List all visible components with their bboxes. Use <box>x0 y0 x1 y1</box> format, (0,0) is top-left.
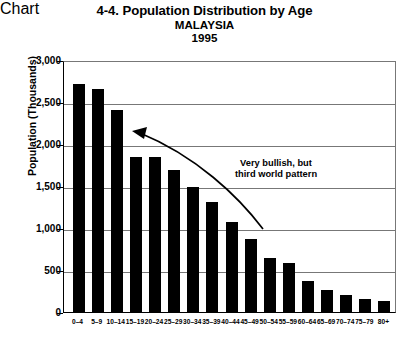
bar <box>359 299 371 312</box>
bar <box>73 84 85 312</box>
annotation-line-1: Very bullish, but <box>216 158 336 169</box>
bar <box>149 157 161 312</box>
y-tick-label: 0 <box>1 308 61 318</box>
plot-area <box>63 61 396 313</box>
bar <box>187 187 199 312</box>
bar <box>264 258 276 312</box>
bar <box>378 301 390 312</box>
x-tick-label: 80+ <box>369 318 397 326</box>
y-tick-mark <box>57 313 63 314</box>
annotation-line-2: third world pattern <box>216 169 336 180</box>
chart-title-block: 4-4. Population Distribution by Age MALA… <box>0 3 409 44</box>
y-tick-label: 2,000 <box>1 140 61 150</box>
bar <box>245 239 257 312</box>
bar <box>321 290 333 312</box>
bar <box>302 281 314 312</box>
chart-subtitle-year: 1995 <box>0 31 409 44</box>
y-tick-label: 2,500 <box>1 98 61 108</box>
bar <box>206 202 218 312</box>
y-tick-label: 1,500 <box>1 182 61 192</box>
chart-subtitle-country: MALAYSIA <box>0 18 409 31</box>
y-tick-label: 1,000 <box>1 224 61 234</box>
bar <box>92 89 104 312</box>
bar <box>168 170 180 312</box>
bar <box>283 263 295 312</box>
bar <box>340 295 352 312</box>
y-axis-title: Population (Thousands) <box>26 26 38 206</box>
bar <box>130 157 142 312</box>
bar <box>226 222 238 312</box>
annotation-very-bullish: Very bullish, but third world pattern <box>216 158 336 180</box>
y-tick-label: 500 <box>1 266 61 276</box>
y-tick-label: 3,000 <box>1 56 61 66</box>
population-distribution-chart: 4-4. Population Distribution by Age MALA… <box>0 0 409 339</box>
bar <box>111 110 123 312</box>
bar-series <box>64 62 395 312</box>
chart-title: 4-4. Population Distribution by Age <box>0 3 409 18</box>
